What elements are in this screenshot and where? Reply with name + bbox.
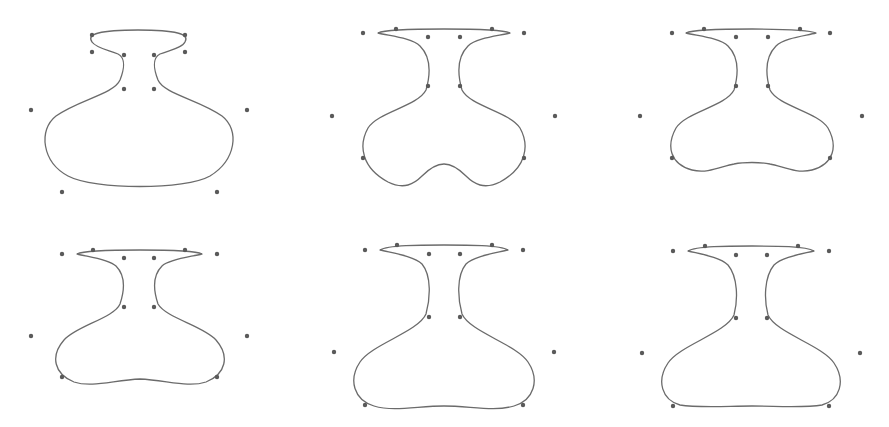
- control-point-dot: [458, 84, 462, 88]
- vase-outline-curve: [363, 29, 525, 186]
- control-point-dot: [765, 316, 769, 320]
- control-point-dot: [522, 31, 526, 35]
- control-point-dot: [638, 114, 642, 118]
- control-point-dot: [734, 316, 738, 320]
- control-point-dot: [215, 252, 219, 256]
- control-point-dot: [765, 253, 769, 257]
- control-point-dot: [215, 190, 219, 194]
- control-point-dot: [521, 248, 525, 252]
- control-point-dot: [828, 31, 832, 35]
- control-point-dot: [152, 87, 156, 91]
- control-point-dot: [427, 315, 431, 319]
- control-point-dot: [426, 84, 430, 88]
- control-point-dot: [734, 253, 738, 257]
- control-point-dot: [426, 35, 430, 39]
- control-point-dot: [458, 315, 462, 319]
- vase-shape: [640, 244, 862, 408]
- vase-outline-curve: [671, 29, 833, 171]
- control-point-dot: [363, 248, 367, 252]
- control-point-dot: [152, 305, 156, 309]
- control-point-dot: [152, 53, 156, 57]
- control-point-dot: [122, 53, 126, 57]
- vase-outline-curve: [56, 250, 225, 384]
- control-point-dot: [245, 334, 249, 338]
- control-point-dot: [858, 351, 862, 355]
- vase-outline-curve: [45, 30, 233, 187]
- control-point-dot: [827, 249, 831, 253]
- control-point-dot: [122, 305, 126, 309]
- control-point-dot: [152, 256, 156, 260]
- control-point-dot: [828, 156, 832, 160]
- control-point-dot: [798, 27, 802, 31]
- control-point-dot: [90, 50, 94, 54]
- control-point-dot: [521, 403, 525, 407]
- control-point-dot: [332, 350, 336, 354]
- control-point-dot: [766, 84, 770, 88]
- control-point-dot: [363, 403, 367, 407]
- vase-shape: [332, 243, 556, 409]
- control-point-dot: [29, 108, 33, 112]
- control-point-dot: [90, 33, 94, 37]
- vase-figure: [0, 0, 889, 427]
- control-point-dot: [29, 334, 33, 338]
- control-point-dot: [361, 156, 365, 160]
- control-point-dot: [490, 243, 494, 247]
- vase-shape: [29, 30, 249, 194]
- vase-outline-curve: [354, 245, 534, 409]
- control-point-dot: [734, 84, 738, 88]
- control-point-dot: [361, 31, 365, 35]
- control-point-dot: [796, 244, 800, 248]
- control-point-dot: [458, 252, 462, 256]
- control-point-dot: [60, 375, 64, 379]
- control-point-dot: [183, 33, 187, 37]
- control-point-dot: [671, 404, 675, 408]
- vase-outline-curve: [662, 246, 840, 407]
- vase-shape: [638, 27, 864, 171]
- vase-shape: [29, 248, 249, 384]
- control-point-dot: [215, 375, 219, 379]
- control-point-dot: [670, 156, 674, 160]
- control-point-dot: [60, 190, 64, 194]
- control-point-dot: [670, 31, 674, 35]
- control-point-dot: [60, 252, 64, 256]
- control-point-dot: [766, 35, 770, 39]
- control-point-dot: [122, 256, 126, 260]
- control-point-dot: [122, 87, 126, 91]
- vases-layer: [29, 27, 864, 409]
- control-point-dot: [183, 50, 187, 54]
- control-point-dot: [183, 248, 187, 252]
- control-point-dot: [671, 249, 675, 253]
- control-point-dot: [330, 114, 334, 118]
- control-point-dot: [245, 108, 249, 112]
- control-point-dot: [553, 114, 557, 118]
- control-point-dot: [734, 35, 738, 39]
- control-point-dot: [640, 351, 644, 355]
- control-point-dot: [91, 248, 95, 252]
- control-point-dot: [703, 244, 707, 248]
- control-point-dot: [702, 27, 706, 31]
- control-point-dot: [395, 243, 399, 247]
- vase-shape: [330, 27, 557, 186]
- control-point-dot: [552, 350, 556, 354]
- control-point-dot: [522, 156, 526, 160]
- control-point-dot: [827, 404, 831, 408]
- control-point-dot: [490, 27, 494, 31]
- control-point-dot: [458, 35, 462, 39]
- control-point-dot: [394, 27, 398, 31]
- control-point-dot: [860, 114, 864, 118]
- control-point-dot: [427, 252, 431, 256]
